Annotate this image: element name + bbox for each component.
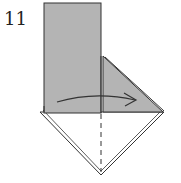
- white-base-diamond: [40, 110, 164, 175]
- origami-diagram: [0, 0, 181, 183]
- right-triangle-flap: [103, 56, 164, 112]
